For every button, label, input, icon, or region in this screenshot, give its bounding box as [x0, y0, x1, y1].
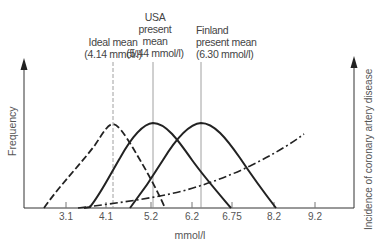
left-y-axis	[21, 58, 28, 208]
up-arrow-icon	[21, 58, 28, 70]
x-tick-label: 6.75	[222, 211, 241, 222]
x-tick-label: 9.2	[308, 211, 322, 222]
x-tick-label: 3.1	[59, 211, 73, 222]
x-axis-label: mmol/l	[175, 229, 206, 241]
x-tick-label: 5.2	[144, 211, 158, 222]
chart-canvas	[0, 0, 379, 245]
right-y-axis	[351, 56, 358, 208]
ideal-distribution-curve	[44, 124, 165, 208]
usa-distribution-curve	[84, 123, 231, 208]
x-tick-label: 8.2	[267, 211, 281, 222]
y-axis-label-left: Frequency	[6, 106, 18, 156]
x-tick-label: 4.1	[99, 211, 113, 222]
y-axis-label-right: Incidence of coronary artery disease	[363, 69, 374, 230]
x-tick-label: 6.2	[185, 211, 199, 222]
finland-mean-label: Finland present mean (6.30 mmol/l)	[196, 24, 257, 60]
usa-mean-label: USA present mean (5.44 mmol/l)	[126, 11, 184, 59]
x-ticks	[66, 202, 315, 208]
finland-distribution-curve	[130, 123, 276, 208]
up-arrow-icon	[351, 56, 358, 68]
